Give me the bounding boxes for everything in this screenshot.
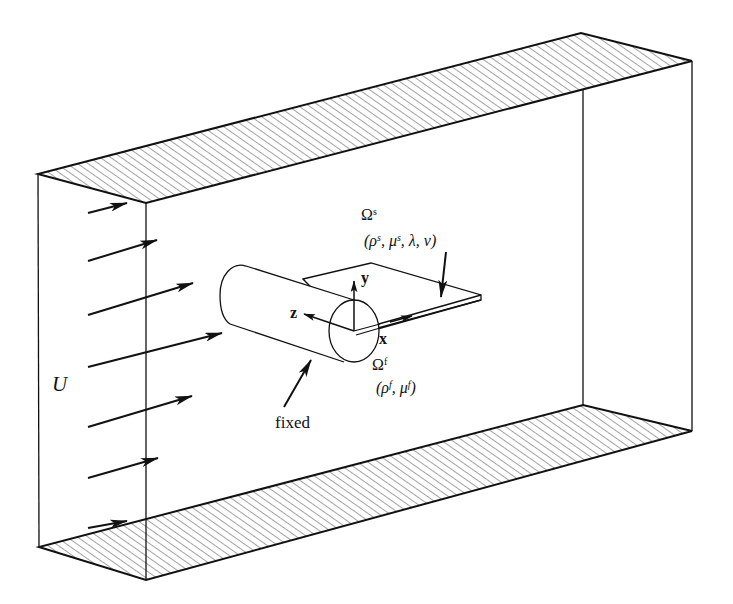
inflow-arrow-5 [88,396,192,427]
x-axis-label: x [379,331,387,347]
z-axis-label: z [290,305,297,321]
solid-domain-label: Ωs [361,206,377,223]
param-text: (ρ [376,379,389,396]
param-text: , μ [392,379,408,396]
y-axis-label: y [361,270,369,286]
channel-diagram: U Ωs (ρs, μs, λ, ν) Ωf (ρf, μf) fixed x … [0,0,733,604]
top-wall [38,33,692,203]
param-text: ) [411,379,416,396]
superscript: f [408,379,411,390]
fixed-label: fixed [275,414,310,431]
diagram-canvas [0,0,733,604]
inlet-back-edge [38,174,39,547]
bottom-wall [39,405,692,580]
superscript: s [397,232,401,243]
superscript: s [377,232,381,243]
inflow-arrow-1 [88,203,127,213]
inflow-arrow-6 [88,458,158,478]
param-text: (ρ [364,232,377,249]
omega-symbol: Ω [361,206,373,223]
inflow-arrow-4 [88,333,222,367]
superscript: s [373,206,377,217]
inflow-arrow-3 [88,283,193,315]
fluid-domain-label: Ωf [372,356,387,373]
omega-symbol: Ω [372,356,384,373]
superscript: f [389,379,392,390]
inflow-velocity-label: U [52,374,67,395]
inflow-arrows [88,203,222,528]
superscript: f [384,356,387,367]
solid-params-label: (ρs, μs, λ, ν) [364,232,436,249]
fixed-pointer-arrow [284,360,311,407]
fluid-params-label: (ρf, μf) [376,379,416,396]
param-text: , λ, ν) [401,232,436,249]
param-text: , μ [381,232,397,249]
